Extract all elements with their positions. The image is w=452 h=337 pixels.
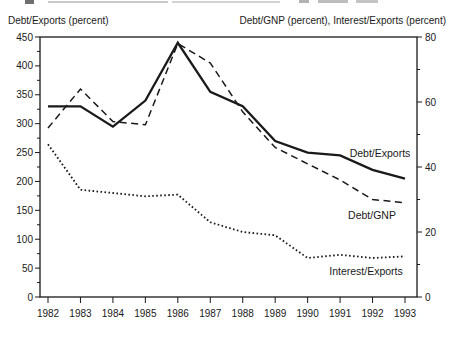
x-tick-label: 1988 xyxy=(232,308,255,319)
x-tick-label: 1993 xyxy=(394,308,417,319)
x-tick-label: 1984 xyxy=(102,308,125,319)
x-tick-label: 1982 xyxy=(37,308,60,319)
curve-label-debt-exports: Debt/Exports xyxy=(350,147,411,159)
debt-indicators-chart: Debt/Exports (percent) Debt/GNP (percent… xyxy=(0,0,452,337)
y-left-tick-label: 100 xyxy=(16,234,33,245)
y-axis-right: 020406080 xyxy=(417,32,437,303)
cropped-text-fragment xyxy=(172,1,280,3)
y-left-tick-label: 250 xyxy=(16,147,33,158)
y-left-tick-label: 300 xyxy=(16,118,33,129)
cropped-text-fragment xyxy=(48,1,168,3)
right-axis-title: Debt/GNP (percent), Interest/Exports (pe… xyxy=(239,15,446,26)
x-tick-label: 1990 xyxy=(297,308,320,319)
y-left-tick-label: 150 xyxy=(16,205,33,216)
y-left-tick-label: 350 xyxy=(16,89,33,100)
y-right-tick-label: 40 xyxy=(425,162,437,173)
x-axis: 1982198319841985198619871988198919901991… xyxy=(37,297,417,319)
y-right-tick-label: 80 xyxy=(425,32,437,43)
x-tick-label: 1991 xyxy=(329,308,352,319)
curve-label-interest-exports: Interest/Exports xyxy=(329,265,403,277)
figure: Debt/Exports (percent) Debt/GNP (percent… xyxy=(0,0,452,337)
y-left-tick-label: 450 xyxy=(16,32,33,43)
cropped-text-fragment xyxy=(299,0,309,3)
x-tick-label: 1983 xyxy=(69,308,92,319)
x-tick-label: 1987 xyxy=(199,308,222,319)
y-left-tick-label: 0 xyxy=(27,292,33,303)
y-right-tick-label: 20 xyxy=(425,227,437,238)
series-line-debt-gnp xyxy=(48,44,405,203)
x-tick-label: 1986 xyxy=(167,308,190,319)
cropped-text-fragment xyxy=(318,0,348,3)
y-left-tick-label: 400 xyxy=(16,60,33,71)
y-left-tick-label: 200 xyxy=(16,176,33,187)
x-tick-label: 1985 xyxy=(134,308,157,319)
y-right-tick-label: 60 xyxy=(425,97,437,108)
plot-frame xyxy=(40,37,417,297)
left-axis-title: Debt/Exports (percent) xyxy=(8,15,109,26)
cropped-text-fragment xyxy=(356,0,378,3)
y-right-tick-label: 0 xyxy=(425,292,431,303)
x-tick-label: 1992 xyxy=(361,308,384,319)
x-tick-label: 1989 xyxy=(264,308,287,319)
cropped-text-fragment xyxy=(25,0,34,4)
y-left-tick-label: 50 xyxy=(22,263,34,274)
curve-label-debt-gnp: Debt/GNP xyxy=(348,209,396,221)
y-axis-left: 050100150200250300350400450 xyxy=(16,32,40,303)
